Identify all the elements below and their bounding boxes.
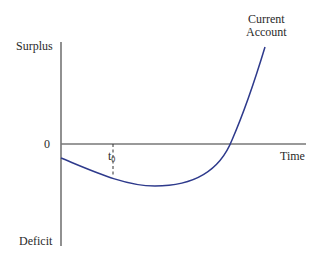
- current-account-diagram: Surplus Deficit 0 Time t0 Current Accoun…: [0, 0, 322, 262]
- zero-label: 0: [44, 138, 50, 151]
- t0-subscript: 0: [111, 155, 115, 164]
- time-axis-label: Time: [280, 150, 305, 163]
- curve-label-line2: Account: [246, 26, 287, 39]
- t0-label: t0: [108, 150, 115, 166]
- current-account-curve: [61, 47, 265, 186]
- surplus-label: Surplus: [16, 40, 53, 53]
- current-account-label: Current Account: [246, 13, 287, 39]
- deficit-label: Deficit: [19, 235, 52, 248]
